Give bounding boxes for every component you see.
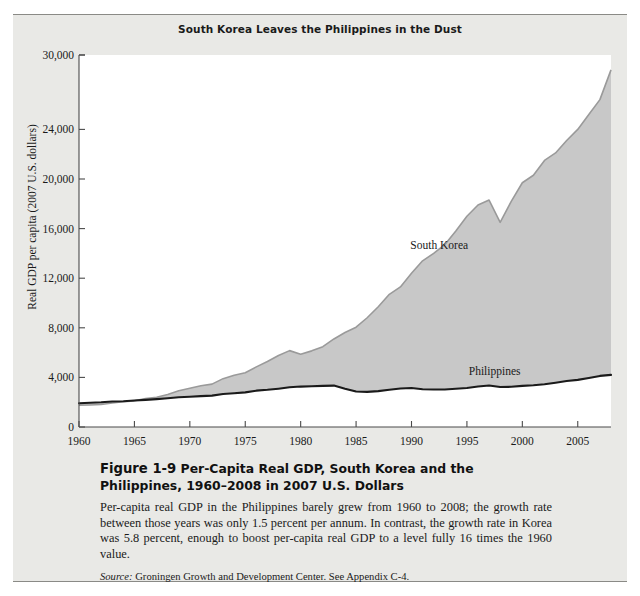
chart-plot-area: Real GDP per capita (2007 U.S. dollars) … bbox=[13, 41, 627, 441]
figure-panel: South Korea Leaves the Philippines in th… bbox=[13, 14, 627, 582]
chart-svg bbox=[13, 41, 627, 441]
series-label-south-korea: South Korea bbox=[410, 239, 468, 251]
series-label-philippines: Philippines bbox=[469, 365, 521, 377]
caption-body-text: Per-capita real GDP in the Philippines b… bbox=[100, 500, 552, 562]
chart-title: South Korea Leaves the Philippines in th… bbox=[13, 23, 627, 35]
caption-figure-number: Figure 1-9 bbox=[100, 461, 176, 476]
caption-source: Source: Groningen Growth and Development… bbox=[100, 571, 552, 582]
source-text: Groningen Growth and Development Center.… bbox=[133, 571, 410, 582]
figure-caption: Figure 1-9 Per-Capita Real GDP, South Ko… bbox=[100, 461, 552, 582]
source-word: Source: bbox=[100, 571, 133, 582]
figure-page: South Korea Leaves the Philippines in th… bbox=[0, 0, 640, 596]
caption-title: Figure 1-9 Per-Capita Real GDP, South Ko… bbox=[100, 461, 552, 494]
